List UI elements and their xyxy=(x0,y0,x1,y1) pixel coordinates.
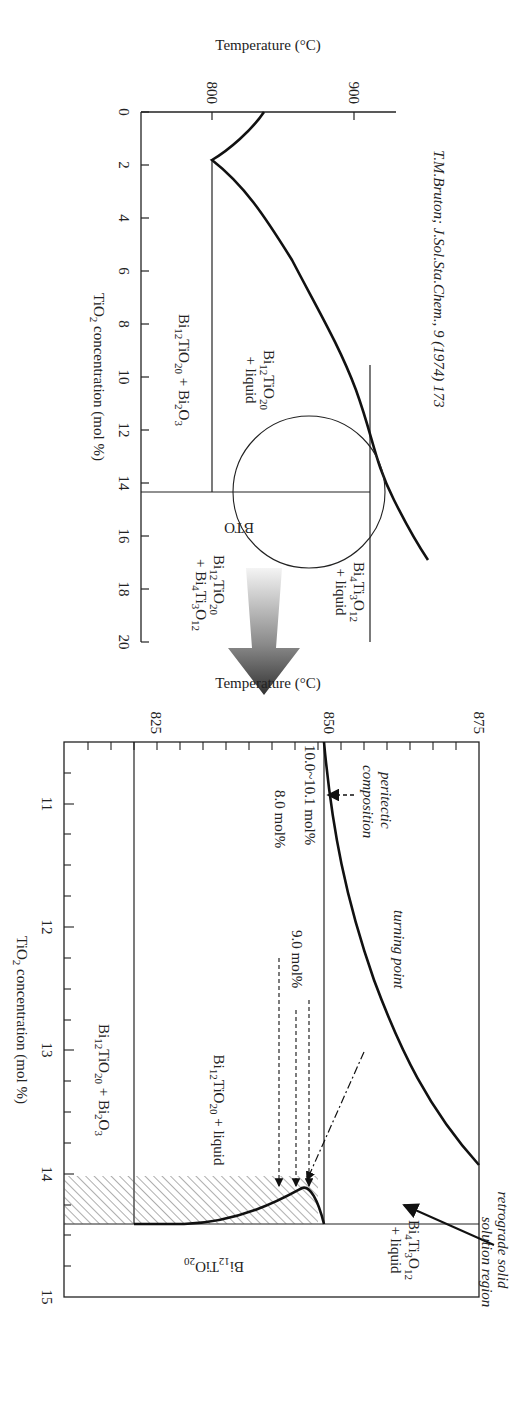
tick-label: 13 xyxy=(39,1043,55,1058)
region-bi12tio20: Bi12TiO20 xyxy=(184,1256,244,1275)
region-bi4-liquid: Bi4Ti3O12 xyxy=(348,562,367,622)
region-bi12-liquid: Bi12TiO20 + liquid xyxy=(208,1055,227,1166)
tick-label: 20 xyxy=(116,635,132,650)
right-x-tick-labels: 11 12 13 14 15 xyxy=(39,797,55,1305)
left-x-axis-label: TiO2 concentration (mol %) xyxy=(88,293,107,461)
left-x-ticks xyxy=(141,112,149,642)
tick-label: 850 xyxy=(321,712,337,735)
right-y-axis-label: Temperature (°C) xyxy=(215,675,320,692)
right-x-axis-label: TiO2 concentration (mol %) xyxy=(11,936,30,1104)
region-bi12-liquid-2: + liquid xyxy=(243,356,259,404)
left-y-tick-labels: 900 800 xyxy=(204,82,362,105)
peritectic-label: peritectic xyxy=(378,771,394,829)
region-bi12-bi2o3: Bi12TiO20 + Bi2O3 xyxy=(93,1024,112,1136)
label-10mol: 10.0~10.1 mol% xyxy=(302,745,318,845)
tick-label: 12 xyxy=(39,920,55,935)
tick-label: 8 xyxy=(116,320,132,328)
tick-label: 6 xyxy=(116,267,132,275)
label-8mol: 8.0 mol% xyxy=(272,790,288,848)
region-bi4-liquid-2: + liquid xyxy=(388,1226,404,1274)
tick-label: 11 xyxy=(39,797,55,811)
turning-point-arrow xyxy=(307,1052,364,1180)
left-y-axis-label: Temperature (°C) xyxy=(215,37,320,54)
tick-label: 800 xyxy=(204,82,220,105)
retrograde-label: retrograde solid xyxy=(495,1192,511,1289)
tick-label: 15 xyxy=(39,1290,55,1305)
left-chart: 0 2 4 6 8 10 12 14 16 18 20 900 800 Temp… xyxy=(88,37,447,650)
left-x-tick-labels: 0 2 4 6 8 10 12 14 16 18 20 xyxy=(116,108,132,649)
right-chart: 11 12 13 14 15 875 850 825 Temperature (… xyxy=(11,675,511,1307)
tick-label: 14 xyxy=(116,476,132,492)
right-y-ticks xyxy=(88,742,456,750)
citation: T.M.Bruton; J.Sol.Sta.Chem., 9 (1974) 17… xyxy=(430,150,447,408)
region-bi12-bi2o3: Bi12TiO20 + Bi2O3 xyxy=(173,314,192,426)
tick-label: 2 xyxy=(116,161,132,169)
region-bi4-liquid-2: + liquid xyxy=(333,568,349,616)
tick-label: 0 xyxy=(116,108,132,116)
right-y-tick-labels: 875 850 825 xyxy=(148,712,487,735)
phase-diagram-figure: 0 2 4 6 8 10 12 14 16 18 20 900 800 Temp… xyxy=(0,0,514,1402)
region-bi4-liquid: Bi4Ti3O12 xyxy=(403,1220,422,1280)
tick-label: 18 xyxy=(116,582,132,597)
peritectic-label-2: composition xyxy=(360,765,376,838)
region-bi12-liquid: Bi12TiO20 xyxy=(258,350,277,410)
tick-label: 900 xyxy=(346,82,362,105)
figure: 0 2 4 6 8 10 12 14 16 18 20 900 800 Temp… xyxy=(0,0,514,1402)
region-bi12-bi4: Bi12TiO20 xyxy=(208,555,227,615)
bto-label: BTO xyxy=(224,520,254,536)
tick-label: 4 xyxy=(116,214,132,222)
tick-label: 825 xyxy=(148,712,164,735)
tick-label: 10 xyxy=(116,370,132,385)
tick-label: 12 xyxy=(116,423,132,438)
tick-label: 875 xyxy=(471,712,487,735)
retrograde-label-2: solution region xyxy=(479,1217,495,1308)
liquidus-curve xyxy=(212,112,428,560)
turning-point-label: turning point xyxy=(391,910,407,990)
label-9mol: 9.0 mol% xyxy=(289,930,305,988)
tick-label: 16 xyxy=(116,529,132,545)
tick-label: 14 xyxy=(39,1167,55,1183)
right-region-labels: Bi12TiO20 + liquid Bi12TiO20 + Bi2O3 Bi4… xyxy=(93,1024,422,1280)
region-bi12-bi4-2: + Bi4Ti3O12 xyxy=(190,559,209,631)
